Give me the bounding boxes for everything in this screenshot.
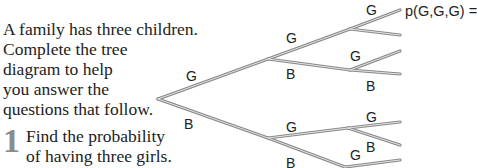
branch-label-l3-bb-g: G bbox=[350, 147, 361, 163]
tree-branches-outer bbox=[158, 10, 400, 167]
branch-label-l1-g: G bbox=[186, 68, 197, 84]
branch-label-l2-upper-b: B bbox=[286, 66, 295, 82]
branch-label-l3-bg-b: B bbox=[366, 139, 375, 155]
probability-ggg-label: p(G,G,G) = bbox=[405, 3, 477, 19]
branch-label-l3-bg-g: G bbox=[366, 109, 377, 125]
branch-label-l2-lower-b: B bbox=[286, 155, 295, 168]
branch-label-l2-lower-g: G bbox=[286, 119, 297, 135]
branch-label-l2-upper-g: G bbox=[286, 30, 297, 46]
branch-label-l3-gb-b: B bbox=[366, 78, 375, 94]
branch-label-l3-gg-g: G bbox=[366, 2, 377, 18]
branch-label-l3-gb-g: G bbox=[350, 48, 361, 64]
branch-label-l1-b: B bbox=[184, 116, 193, 132]
